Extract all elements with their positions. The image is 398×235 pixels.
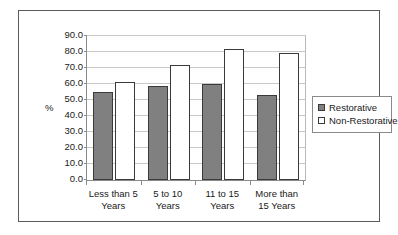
y-axis-tick-label: 0.0	[70, 174, 83, 183]
chart-frame: % 0.010.020.030.040.050.060.070.080.090.…	[18, 10, 380, 222]
legend-swatch-icon	[318, 117, 325, 124]
legend-item-non-restorative[interactable]: Non-Restorative	[318, 114, 386, 127]
bar-restorative	[148, 86, 168, 180]
y-axis-tick-mark	[84, 147, 87, 148]
y-axis-tick-mark	[84, 67, 87, 68]
y-axis-tick-mark	[84, 131, 87, 132]
y-axis-tick-label: 80.0	[65, 46, 84, 55]
y-axis-tick-mark	[84, 51, 87, 52]
bar-restorative	[202, 84, 222, 180]
y-axis-tick-label: 60.0	[65, 78, 84, 87]
gridline	[87, 67, 305, 68]
chart-legend: RestorativeNon-Restorative	[312, 96, 392, 133]
y-axis-tick-label: 50.0	[65, 94, 84, 103]
x-axis-tick-mark	[303, 181, 304, 185]
x-axis-tick-mark	[195, 181, 196, 185]
x-axis-tick-mark	[141, 181, 142, 185]
legend-item-label: Non-Restorative	[329, 115, 398, 126]
gridline	[87, 51, 305, 52]
bar-non-restorative	[115, 82, 135, 180]
y-axis-tick-label: 30.0	[65, 126, 84, 135]
bar-non-restorative	[170, 65, 190, 180]
x-axis-category-label-line: More than	[240, 188, 315, 200]
x-axis-tick-marks	[86, 181, 306, 186]
x-axis-category-label: More than15 Years	[240, 188, 315, 212]
y-axis-tick-mark	[84, 35, 87, 36]
y-axis-tick-mark	[84, 163, 87, 164]
legend-swatch-icon	[318, 104, 325, 111]
bar-non-restorative	[224, 49, 244, 180]
y-axis-tick-label: 90.0	[65, 30, 84, 39]
y-axis-tick-label: 40.0	[65, 110, 84, 119]
x-axis-category-label-line: 15 Years	[240, 200, 315, 212]
gridline	[87, 35, 305, 36]
x-axis-tick-mark	[86, 181, 87, 185]
x-axis-category-labels: Less than 5Years5 to 10Years11 to 15Year…	[86, 188, 306, 218]
y-axis-tick-mark	[84, 179, 87, 180]
legend-item-restorative[interactable]: Restorative	[318, 101, 386, 114]
y-axis-tick-mark	[84, 83, 87, 84]
plot-area	[86, 35, 306, 181]
y-axis-tick-label: 20.0	[65, 142, 84, 151]
bar-non-restorative	[279, 53, 299, 180]
chart-figure: % 0.010.020.030.040.050.060.070.080.090.…	[0, 0, 398, 235]
y-axis-tick-label: 70.0	[65, 62, 84, 71]
y-axis-tick-label: 10.0	[65, 158, 84, 167]
legend-item-label: Restorative	[329, 102, 377, 113]
bar-restorative	[93, 92, 113, 180]
x-axis-tick-mark	[250, 181, 251, 185]
bar-restorative	[257, 95, 277, 180]
y-axis-tick-mark	[84, 115, 87, 116]
y-axis-tick-mark	[84, 99, 87, 100]
